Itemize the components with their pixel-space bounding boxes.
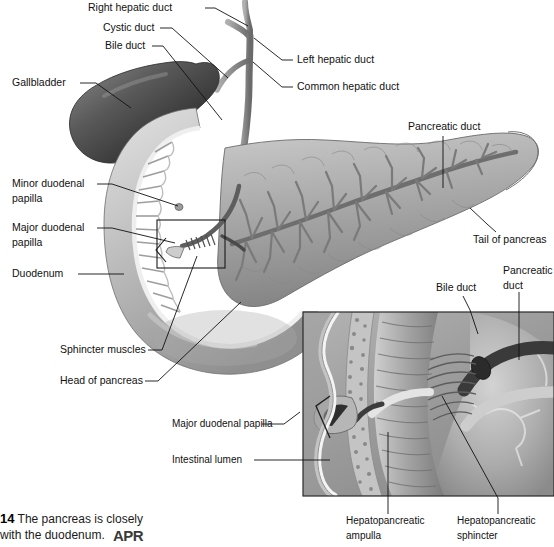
label-inset-hepatopancreatic-sphincter-line2: sphincter xyxy=(457,530,498,541)
caption-line-2: with the duodenum. xyxy=(0,528,105,542)
label-common-hepatic-duct: Common hepatic duct xyxy=(297,80,399,92)
label-inset-major-duodenal-papilla: Major duodenal papilla xyxy=(172,418,273,429)
apr-logo: APR xyxy=(113,528,143,544)
minor-duodenal-papilla-shape xyxy=(175,204,183,211)
label-right-hepatic-duct: Right hepatic duct xyxy=(88,1,172,13)
label-tail-of-pancreas: Tail of pancreas xyxy=(473,233,547,245)
label-duodenum: Duodenum xyxy=(12,267,64,279)
duodenum-lower-shading xyxy=(153,310,297,366)
figure-root: Right hepatic duct Cystic duct Bile duct… xyxy=(0,0,554,547)
label-pancreatic-duct-main: Pancreatic duct xyxy=(408,120,480,132)
label-head-of-pancreas: Head of pancreas xyxy=(60,374,143,386)
inset-panel xyxy=(303,312,554,496)
label-inset-bile-duct: Bile duct xyxy=(436,281,476,293)
label-cystic-duct: Cystic duct xyxy=(103,21,154,33)
label-major-duodenal-papilla-line2: papilla xyxy=(12,236,43,248)
label-inset-pancreatic-duct-line2: duct xyxy=(503,279,523,291)
label-inset-hepatopancreatic-sphincter-line1: Hepatopancreatic xyxy=(457,515,535,526)
leader-common-hepatic-duct xyxy=(253,62,293,87)
label-minor-duodenal-papilla-line1: Minor duodenal xyxy=(12,177,84,189)
pancreas-shape xyxy=(218,132,539,307)
label-bile-duct: Bile duct xyxy=(105,39,145,51)
figure-number: 14 xyxy=(0,511,14,526)
label-gallbladder: Gallbladder xyxy=(12,76,66,88)
label-minor-duodenal-papilla-line2: papilla xyxy=(12,192,43,204)
label-left-hepatic-duct: Left hepatic duct xyxy=(297,53,374,65)
caption-line-1: The pancreas is closely xyxy=(18,512,143,526)
duodenum-cut-edge xyxy=(158,142,180,312)
label-inset-intestinal-lumen: Intestinal lumen xyxy=(172,454,242,465)
cystic-duct-shape xyxy=(217,60,250,90)
label-inset-hepatopancreatic-ampulla-line1: Hepatopancreatic xyxy=(346,515,424,526)
figure-caption: 14 The pancreas is closely with the duod… xyxy=(0,511,210,543)
major-duodenal-papilla-shape xyxy=(166,247,184,259)
label-major-duodenal-papilla-line1: Major duodenal xyxy=(12,221,84,233)
label-sphincter-muscles: Sphincter muscles xyxy=(60,343,146,355)
label-inset-hepatopancreatic-ampulla-line2: ampulla xyxy=(346,530,381,541)
leader-tail-of-pancreas xyxy=(470,208,496,232)
label-inset-pancreatic-duct-line1: Pancreatic xyxy=(503,264,553,276)
leader-left-hepatic-duct xyxy=(254,38,293,60)
anatomy-illustration: Right hepatic duct Cystic duct Bile duct… xyxy=(0,0,554,547)
